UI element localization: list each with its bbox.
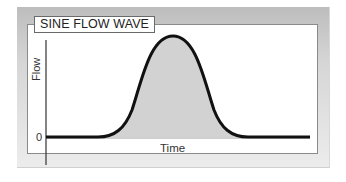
y-axis-label: Flow	[30, 59, 42, 81]
y-zero-label: 0	[36, 131, 42, 143]
x-axis-label: Time	[160, 142, 185, 154]
pulse-fill	[98, 36, 248, 137]
chart-title: SINE FLOW WAVE	[34, 16, 155, 33]
